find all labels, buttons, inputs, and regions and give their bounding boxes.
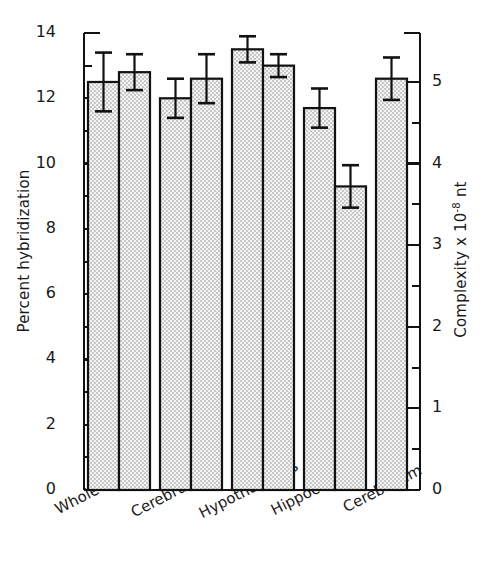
bar-cerebrum-1 [160,98,191,490]
bar-hypothalamus-1 [232,49,263,490]
bars-group [88,49,407,490]
bar-cerebrum-2 [191,79,222,490]
bar-whole-brain-1 [88,82,119,490]
bar-cerebellum-1 [376,79,407,490]
bar-whole-brain-2 [119,72,150,490]
chart-figure: Percent hybridization Complexity x 10-8 … [0,0,484,567]
bar-hippocampus-1 [304,108,335,490]
bar-hippocampus-2 [335,186,366,490]
plot-area [0,0,484,567]
bar-hypothalamus-2 [263,66,294,490]
